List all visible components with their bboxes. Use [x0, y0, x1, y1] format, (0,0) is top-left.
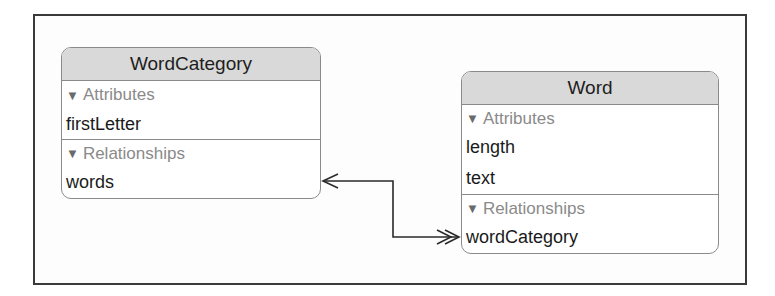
attribute-row-firstletter[interactable]: firstLetter: [62, 109, 320, 139]
relationship-row-words[interactable]: words: [62, 167, 320, 198]
section-label: Relationships: [83, 144, 185, 164]
section-label: Relationships: [483, 199, 585, 219]
entity-title[interactable]: Word: [462, 72, 718, 105]
attribute-row-length[interactable]: length: [462, 132, 718, 163]
relationships-section: ▼ Relationships wordCategory: [462, 194, 718, 253]
attribute-row-text[interactable]: text: [462, 163, 718, 194]
section-label: Attributes: [83, 85, 155, 105]
disclosure-triangle-icon[interactable]: ▼: [66, 89, 79, 102]
relationship-row-wordcategory[interactable]: wordCategory: [462, 222, 718, 253]
section-label: Attributes: [483, 109, 555, 129]
section-header-relationships[interactable]: ▼ Relationships: [462, 195, 718, 222]
attributes-section: ▼ Attributes length text: [462, 105, 718, 194]
disclosure-triangle-icon[interactable]: ▼: [66, 147, 79, 160]
disclosure-triangle-icon[interactable]: ▼: [466, 202, 479, 215]
section-header-attributes[interactable]: ▼ Attributes: [62, 81, 320, 109]
disclosure-triangle-icon[interactable]: ▼: [466, 112, 479, 125]
entity-wordcategory[interactable]: WordCategory ▼ Attributes firstLetter ▼ …: [61, 47, 321, 199]
entity-word[interactable]: Word ▼ Attributes length text ▼ Relation…: [461, 71, 719, 254]
relationships-section: ▼ Relationships words: [62, 139, 320, 198]
entity-title[interactable]: WordCategory: [62, 48, 320, 81]
section-header-attributes[interactable]: ▼ Attributes: [462, 105, 718, 132]
attributes-section: ▼ Attributes firstLetter: [62, 81, 320, 139]
section-header-relationships[interactable]: ▼ Relationships: [62, 140, 320, 167]
